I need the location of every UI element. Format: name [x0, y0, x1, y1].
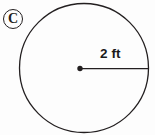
circle-diagram-svg — [0, 0, 155, 135]
geometry-figure: C 2 ft — [0, 0, 155, 135]
center-point-dot — [77, 66, 82, 71]
radius-dimension-label: 2 ft — [100, 47, 121, 61]
